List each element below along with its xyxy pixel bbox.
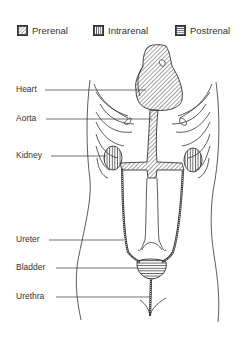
vertical-hatch-icon <box>93 25 104 36</box>
legend-intrarenal: Intrarenal <box>93 25 148 36</box>
legend-label: Intrarenal <box>108 25 148 36</box>
legend-label: Prerenal <box>32 25 68 36</box>
label-aorta: Aorta <box>16 113 36 123</box>
diagonal-hatch-icon <box>17 25 28 36</box>
legend-postrenal: Postrenal <box>175 25 230 36</box>
label-bladder: Bladder <box>16 262 45 272</box>
kidney-left <box>104 146 122 170</box>
horizontal-hatch-icon <box>175 25 186 36</box>
label-kidney: Kidney <box>16 150 42 160</box>
urethra <box>140 279 166 316</box>
label-heart: Heart <box>16 84 37 94</box>
label-urethra: Urethra <box>16 291 44 301</box>
inner-structure <box>138 178 166 251</box>
aorta <box>120 110 184 178</box>
anatomy-diagram <box>0 0 249 337</box>
leader-lines <box>45 90 152 297</box>
bladder <box>137 259 166 279</box>
torso-outline <box>76 80 219 322</box>
label-ureter: Ureter <box>16 234 40 244</box>
heart <box>136 45 183 111</box>
legend-prerenal: Prerenal <box>17 25 68 36</box>
kidney-right <box>184 148 202 172</box>
legend-label: Postrenal <box>190 25 230 36</box>
